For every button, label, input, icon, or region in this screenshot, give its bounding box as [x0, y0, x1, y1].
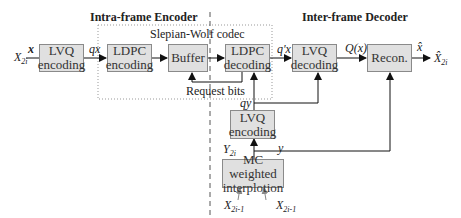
lvq-encoding-block: LVQencoding [39, 44, 84, 72]
request-bits-label: Request bits [186, 84, 245, 99]
Qx-label: Q(x) [345, 41, 367, 56]
block-label: decoding [291, 57, 339, 72]
block-label: encoding [38, 57, 86, 72]
qprime-x-label: q'x [277, 42, 291, 57]
Y-label: Y2i [223, 142, 236, 158]
ref-frame-prev-label: X2i-1 [224, 198, 244, 214]
lvq-decoding-block: LVQdecoding [292, 44, 337, 72]
block-label: LVQ [302, 43, 328, 58]
block-label: LDPC [231, 43, 264, 58]
block-label: interplotion [223, 180, 284, 195]
codec-label: Slepian-Wolf codec [150, 27, 245, 42]
mc-interpolation-block: MC weightedinterplotion [222, 159, 284, 188]
block-label: MC weighted [229, 152, 277, 181]
lvq-encoding-side-block: LVQencoding [230, 110, 275, 139]
block-label: LVQ [240, 110, 266, 125]
block-label: decoding [224, 57, 272, 72]
recon-block: Recon. [367, 44, 412, 72]
encoder-heading: Intra-frame Encoder [90, 10, 198, 25]
qy-label: qy [240, 96, 251, 111]
decoder-heading: Inter-frame Decoder [302, 10, 408, 25]
xhat-label: x̂ [417, 40, 422, 55]
block-label: encoding [106, 57, 154, 72]
y-label: y [278, 141, 283, 156]
dvc-block-diagram: Intra-frame Encoder Inter-frame Decoder … [0, 0, 461, 218]
buffer-block: Buffer [168, 44, 208, 72]
x-label: x [28, 42, 34, 57]
block-label: encoding [229, 124, 277, 139]
ldpc-encoding-block: LDPCencoding [107, 44, 152, 72]
block-label: LVQ [49, 43, 75, 58]
block-label: LDPC [113, 43, 146, 58]
ref-frame-next-label: X2i-1 [276, 198, 296, 214]
input-label: X2i [14, 50, 28, 66]
output-label: X̂2i [434, 51, 448, 67]
qx-label: qx [89, 42, 100, 57]
ldpc-decoding-block: LDPCdecoding [225, 44, 270, 72]
